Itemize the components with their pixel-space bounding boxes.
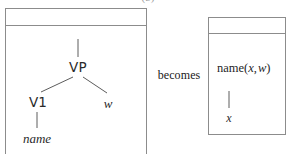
tree-node-v1: V1 (29, 96, 47, 110)
result-structure-panel: name(x, w) (208, 17, 286, 135)
formula-close-paren: ) (266, 61, 270, 75)
tree-node-vp: VP (69, 61, 87, 75)
tree-node-x: x (226, 112, 231, 124)
tree-node-name: name (23, 132, 51, 145)
becomes-label: becomes (152, 68, 206, 83)
figure-canvas: (b) VP V1 w name becomes name(x, w) x (0, 0, 295, 154)
tree-node-w: w (104, 97, 113, 110)
formula-separator: , (254, 61, 257, 75)
result-panel-header-bar (209, 18, 285, 34)
result-formula: name(x, w) (217, 62, 271, 75)
formula-functor: name (217, 61, 244, 75)
